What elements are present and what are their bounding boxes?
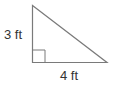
right-angle-marker — [33, 50, 46, 63]
vertical-leg-label: 3 ft — [4, 28, 22, 41]
horizontal-leg-label: 4 ft — [60, 69, 78, 82]
right-triangle-figure — [0, 0, 117, 90]
triangle — [33, 6, 108, 63]
